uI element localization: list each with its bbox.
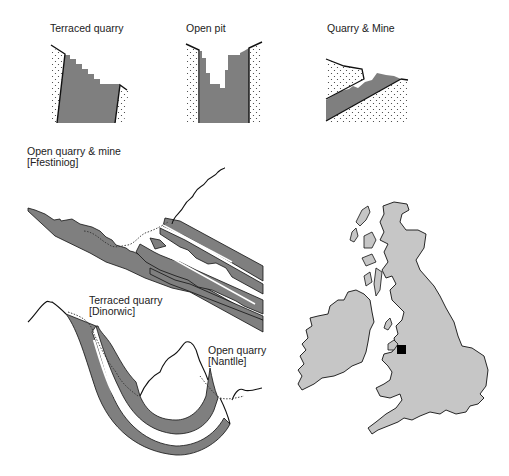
hebrides-island bbox=[356, 206, 370, 226]
islay-island bbox=[364, 272, 372, 286]
ffestiniog-section bbox=[28, 168, 263, 332]
inner-hill-surface bbox=[140, 342, 208, 396]
slate-vein bbox=[57, 55, 120, 123]
ireland-landmass bbox=[298, 290, 374, 390]
square-marker-icon bbox=[397, 345, 406, 354]
kintyre-peninsula bbox=[374, 268, 382, 296]
slate-fold-outer bbox=[66, 314, 230, 455]
isle-of-man bbox=[384, 318, 392, 330]
slate-band-c bbox=[150, 238, 166, 249]
terraced-quarry-panel bbox=[51, 45, 129, 123]
skye-island bbox=[364, 232, 376, 248]
hill-surface-line bbox=[172, 168, 225, 224]
mountain-surface-line bbox=[28, 301, 66, 322]
country-rock-right bbox=[250, 43, 261, 123]
nantlle-surface-line bbox=[220, 388, 262, 424]
mull-island bbox=[362, 254, 376, 266]
hebrides-island bbox=[350, 228, 358, 242]
country-rock-left bbox=[187, 46, 199, 123]
slate-vein bbox=[200, 48, 249, 123]
british-isles-map bbox=[298, 202, 488, 434]
open-pit-panel bbox=[186, 42, 262, 123]
dinorwic-nantlle-section bbox=[28, 301, 262, 455]
diagram-canvas bbox=[0, 0, 509, 476]
quarry-mine-panel bbox=[326, 59, 408, 123]
great-britain-landmass bbox=[368, 202, 488, 434]
